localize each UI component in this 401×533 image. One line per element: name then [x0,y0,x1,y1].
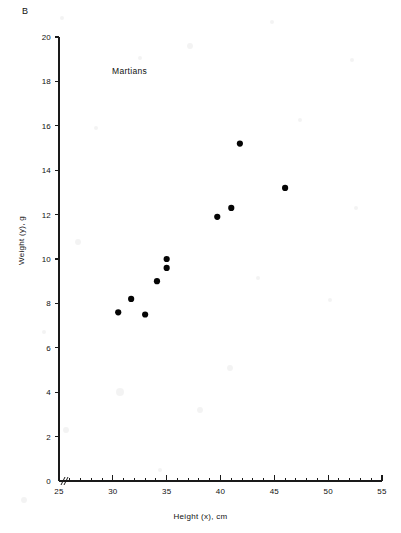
data-point-7 [228,205,234,211]
y-axis: 02468101214161820 [42,33,59,486]
data-point-8 [237,140,243,146]
data-point-9 [282,185,288,191]
y-tick-label-20: 20 [42,33,52,42]
data-points-layer [115,140,288,317]
y-tick-label-14: 14 [42,166,52,175]
paper-speck-2 [270,20,274,24]
paper-speck-0 [60,16,64,20]
x-tick-label-30: 30 [108,487,118,496]
y-tick-label-16: 16 [42,122,52,131]
x-axis: 25303540455055 [54,475,387,496]
paper-speck-3 [350,58,354,62]
data-point-3 [154,278,160,284]
paper-speck-17 [256,276,260,280]
x-tick-label-35: 35 [162,487,172,496]
data-point-0 [115,309,121,315]
data-point-5 [164,256,170,262]
paper-speck-11 [42,330,46,334]
paper-speck-13 [63,427,69,433]
data-point-1 [128,296,134,302]
paper-speck-9 [298,118,302,122]
y-tick-label-18: 18 [42,77,52,86]
data-point-6 [214,214,220,220]
paper-speck-12 [227,365,233,371]
data-point-2 [142,311,148,317]
x-tick-label-50: 50 [324,487,334,496]
x-tick-label-25: 25 [54,487,64,496]
paper-noise-layer [21,16,358,503]
paper-speck-16 [138,56,142,60]
y-tick-label-2: 2 [46,433,51,442]
paper-speck-14 [354,206,358,210]
y-tick-label-4: 4 [46,388,51,397]
x-tick-label-45: 45 [270,487,280,496]
y-tick-label-0: 0 [46,477,51,486]
paper-speck-15 [21,497,27,503]
paper-speck-5 [116,388,124,396]
y-tick-label-12: 12 [42,211,52,220]
paper-speck-8 [94,126,98,130]
x-tick-label-40: 40 [216,487,226,496]
paper-speck-10 [158,468,162,472]
paper-speck-6 [197,407,203,413]
y-tick-label-8: 8 [46,299,51,308]
data-point-4 [164,265,170,271]
scatter-plot-figure: B Martians Weight (y), g Height (x), cm … [0,0,401,533]
paper-speck-1 [187,43,193,49]
plot-canvas: 02468101214161820 25303540455055 [0,0,401,533]
paper-speck-7 [328,298,332,302]
y-tick-label-6: 6 [46,344,51,353]
x-tick-label-55: 55 [377,487,387,496]
y-tick-label-10: 10 [42,255,52,264]
paper-speck-4 [75,239,81,245]
